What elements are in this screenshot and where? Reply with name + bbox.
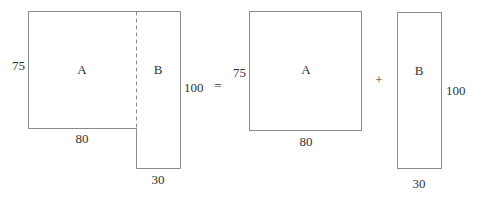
composite-outline (29, 12, 181, 169)
composite-shape: A B 75 80 100 30 (12, 12, 204, 188)
rectangle-b: B 100 30 (398, 13, 466, 192)
composite-width-a: 80 (76, 131, 89, 146)
composite-width-b: 30 (152, 172, 165, 187)
rectangle-a-width: 80 (300, 134, 313, 149)
rectangle-b-label: B (415, 63, 424, 78)
composite-height-b: 100 (184, 80, 204, 95)
composite-label-b: B (154, 62, 163, 77)
rectangle-b-outline (398, 13, 442, 169)
area-decomposition-diagram: A B 75 80 100 30 = A 75 80 + B 100 30 (0, 0, 480, 198)
rectangle-a-label: A (301, 62, 311, 77)
plus-sign: + (375, 72, 382, 87)
equals-sign: = (214, 78, 221, 93)
rectangle-b-width: 30 (413, 176, 426, 191)
composite-height-a: 75 (12, 58, 25, 73)
composite-label-a: A (77, 62, 87, 77)
rectangle-a-height: 75 (233, 65, 246, 80)
rectangle-a: A 75 80 (233, 12, 362, 150)
rectangle-b-height: 100 (446, 83, 466, 98)
